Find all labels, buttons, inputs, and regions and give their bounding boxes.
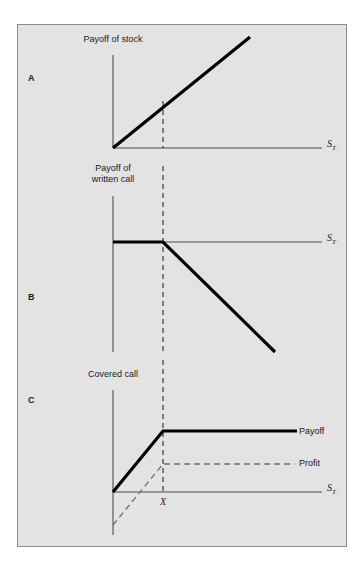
figure-canvas — [0, 0, 363, 569]
panel-a-graph — [113, 37, 322, 148]
panel-a-stock-payoff-line — [113, 37, 250, 148]
panel-b-x-axis-label: ST — [327, 232, 336, 246]
panel-title-payoff-of-stock: Payoff of stock — [84, 34, 143, 45]
panel-letter-b: B — [28, 292, 35, 302]
panel-title-payoff-of-written-call: Payoff of written call — [92, 163, 135, 185]
panel-a-x-axis-label: ST — [327, 138, 336, 152]
strike-price-label: X — [160, 496, 166, 507]
panel-c-graph — [113, 360, 322, 535]
panel-letter-c: C — [28, 395, 35, 405]
figure-root: A B C Payoff of stock Payoff of written … — [0, 0, 363, 569]
profit-curve-label: Profit — [299, 458, 320, 468]
panel-a-x-axis-label-sub: T — [332, 144, 336, 152]
panel-b-x-axis-label-sub: T — [332, 238, 336, 246]
panel-title-covered-call: Covered call — [88, 369, 138, 380]
panel-letter-a: A — [28, 73, 35, 83]
panel-b-graph — [113, 166, 322, 352]
panel-c-profit-line — [113, 464, 295, 525]
panel-b-written-call-payoff-line — [113, 242, 275, 352]
panel-c-x-axis-label: ST — [327, 482, 336, 496]
panel-c-payoff-line — [113, 431, 297, 492]
panel-c-x-axis-label-sub: T — [332, 488, 336, 496]
payoff-curve-label: Payoff — [299, 426, 324, 436]
